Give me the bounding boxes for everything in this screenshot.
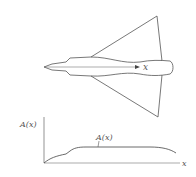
fuselage <box>44 57 173 76</box>
area-plot: A(x) x A(x) <box>19 117 187 168</box>
diagram-canvas: x A(x) x A(x) <box>0 0 196 177</box>
plot-y-label: A(x) <box>19 120 37 129</box>
aircraft-x-label: x <box>143 62 148 72</box>
aircraft-planform <box>44 16 173 117</box>
plot-x-label: x <box>182 159 187 168</box>
curve-label: A(x) <box>95 133 113 142</box>
lower-wing <box>91 75 162 117</box>
area-curve <box>44 147 176 163</box>
upper-wing <box>91 16 162 61</box>
arrow-head-icon <box>135 65 140 69</box>
